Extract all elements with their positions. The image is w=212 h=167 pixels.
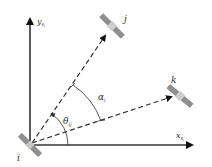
satellite-geometry-diagram: ysi xsi θij αi i j k bbox=[0, 0, 212, 167]
alpha-label: αi bbox=[98, 92, 106, 103]
node-label-i: i bbox=[17, 153, 20, 163]
satellite-j-icon bbox=[99, 13, 126, 40]
node-label-k: k bbox=[171, 75, 176, 85]
alpha-tick-end bbox=[98, 120, 105, 121]
theta-label: θij bbox=[63, 116, 72, 128]
alpha-arc bbox=[73, 85, 101, 121]
satellite-k-icon bbox=[166, 83, 194, 108]
node-label-j: j bbox=[122, 14, 127, 24]
y-axis-label: ysi bbox=[36, 17, 45, 28]
x-axis-label: xsi bbox=[176, 131, 184, 142]
line-i-to-k bbox=[32, 97, 171, 143]
